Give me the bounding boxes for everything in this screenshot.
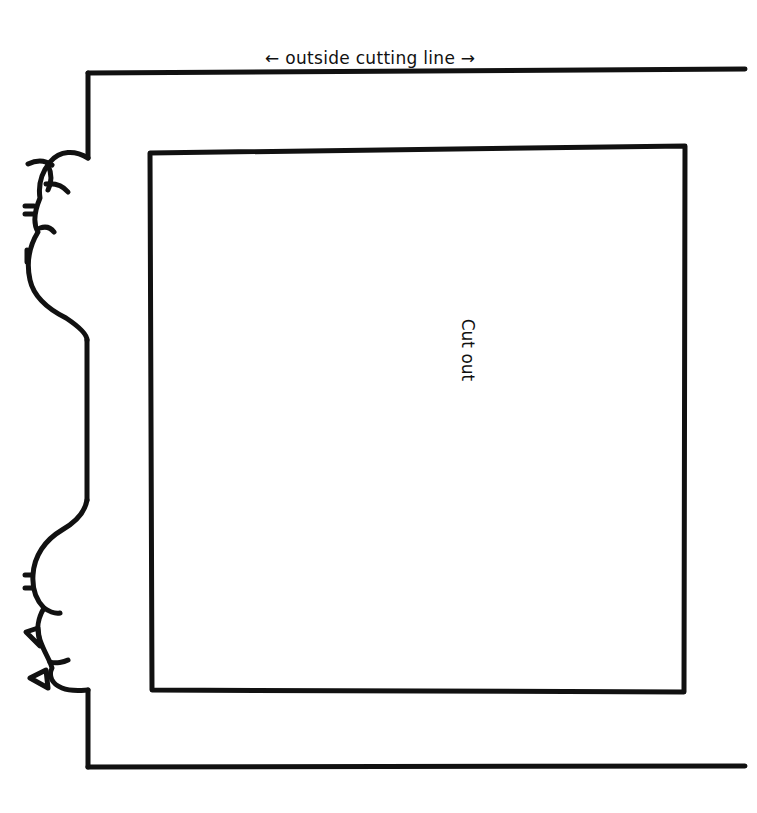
outside-cutting-line-label: ← outside cutting line → [265,48,475,68]
cut-out-label: Cut out [458,300,478,400]
outer-bottom-line [88,766,745,767]
inner-cutout-rect [150,146,685,692]
upper-scallop-edge [28,152,88,340]
pattern-drawing [0,0,757,813]
outer-top-line [88,69,745,73]
